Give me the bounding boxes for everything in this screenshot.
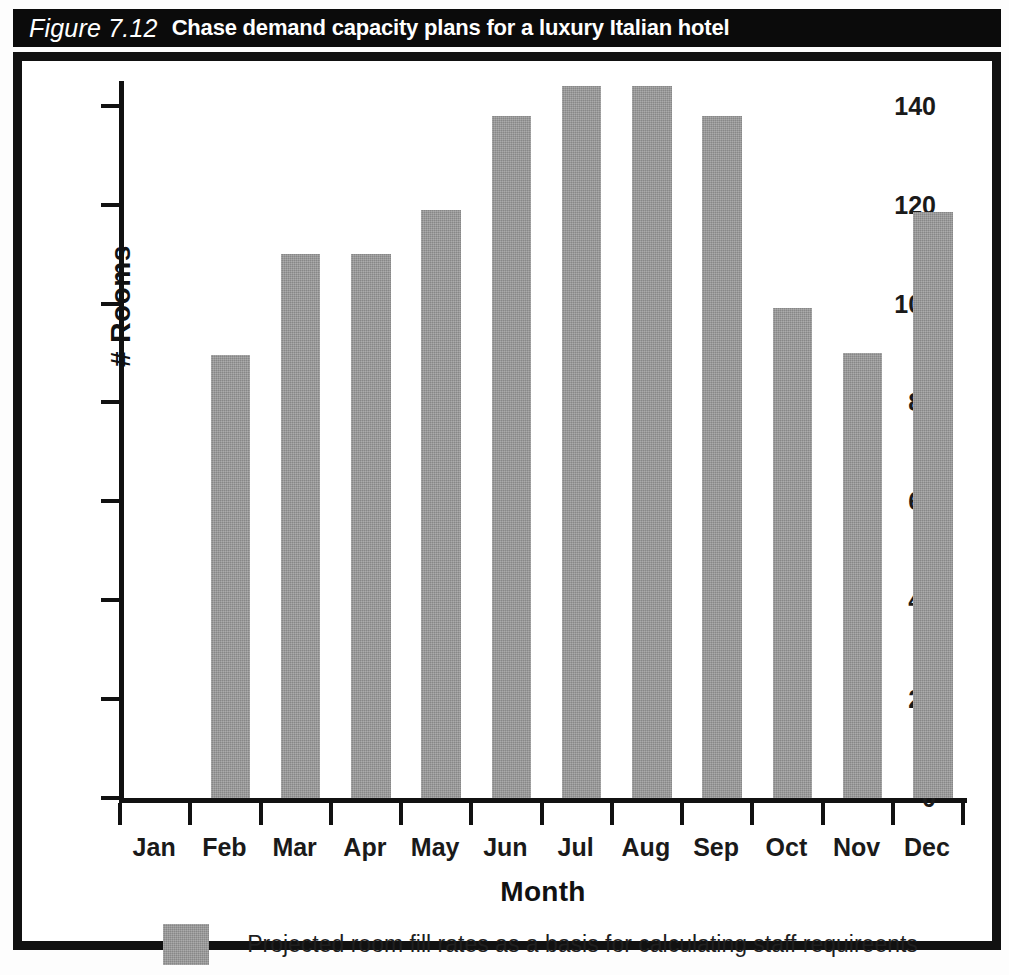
x-tick-mark [188,803,192,825]
x-tick-mark [610,803,614,825]
bar-nov [843,353,882,798]
x-tick-label-dec: Dec [904,833,950,862]
bar-sep [702,116,741,798]
y-tick-mark [101,499,119,503]
x-tick-mark [680,803,684,825]
legend-label: Projected room fill rates as a basis for… [247,931,918,958]
figure-container: Figure 7.12 Chase demand capacity plans … [0,0,1009,975]
y-axis-title: # Rooms [105,245,137,367]
x-tick-label-nov: Nov [833,833,880,862]
bar-jul [562,86,601,798]
x-tick-label-jul: Jul [558,833,594,862]
figure-number-label: Figure 7.12 [29,14,158,43]
figure-title-bar: Figure 7.12 Chase demand capacity plans … [13,9,1001,47]
figure-title-text: Chase demand capacity plans for a luxury… [172,15,730,41]
chart-canvas: 020406080100120140 JanFebMarAprMayJunJul… [22,61,992,941]
x-tick-mark [118,803,122,825]
y-tick-mark [101,796,119,800]
x-tick-label-feb: Feb [202,833,246,862]
y-tick-mark [101,104,119,108]
x-tick-label-aug: Aug [622,833,671,862]
x-tick-label-oct: Oct [766,833,808,862]
y-axis-line [119,81,124,798]
y-tick-label: 140 [894,91,936,120]
y-tick-mark [101,400,119,404]
bar-oct [773,308,812,798]
x-tick-mark [750,803,754,825]
bar-aug [632,86,671,798]
bar-may [421,210,460,798]
x-tick-mark [891,803,895,825]
bar-apr [351,254,390,798]
x-tick-label-apr: Apr [343,833,386,862]
chart-frame: 020406080100120140 JanFebMarAprMayJunJul… [13,52,1001,950]
x-tick-label-jan: Jan [133,833,176,862]
x-tick-label-may: May [411,833,460,862]
bar-jun [492,116,531,798]
y-tick-mark [101,598,119,602]
bar-mar [281,254,320,798]
bar-dec [913,212,952,798]
x-tick-mark [540,803,544,825]
x-tick-mark [469,803,473,825]
x-tick-mark [961,803,965,825]
x-tick-label-mar: Mar [272,833,316,862]
x-tick-mark [259,803,263,825]
legend-swatch [163,924,209,965]
y-tick-mark [101,203,119,207]
x-tick-mark [821,803,825,825]
bar-feb [211,355,250,798]
x-axis-title: Month [119,876,967,908]
x-tick-label-sep: Sep [693,833,739,862]
x-tick-mark [399,803,403,825]
x-tick-label-jun: Jun [483,833,527,862]
plot-area: 020406080100120140 JanFebMarAprMayJunJul… [119,81,962,798]
chart-legend: Projected room fill rates as a basis for… [119,924,962,965]
x-tick-mark [329,803,333,825]
y-tick-mark [101,697,119,701]
